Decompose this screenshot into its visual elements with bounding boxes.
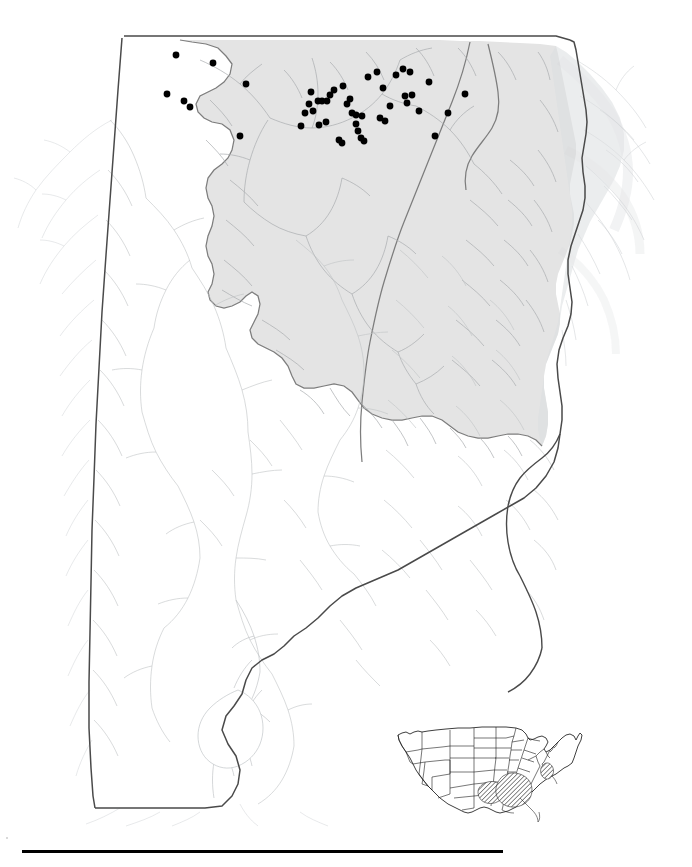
occurrence-dot <box>404 100 411 107</box>
united-states-locator-inset <box>388 708 588 830</box>
figure-root <box>0 0 692 867</box>
page-speck <box>6 837 8 839</box>
occurrence-dot <box>409 92 416 99</box>
occurrence-dot <box>339 140 346 147</box>
occurrence-dot <box>310 108 317 115</box>
occurrence-dot <box>400 66 407 73</box>
occurrence-dot <box>353 112 360 119</box>
occurrence-dot <box>298 123 305 130</box>
occurrence-dot <box>387 103 394 110</box>
occurrence-dot <box>306 101 313 108</box>
occurrence-dot <box>316 122 323 129</box>
occurrence-dot <box>181 98 188 105</box>
occurrence-dot <box>426 79 433 86</box>
occurrence-dot <box>445 110 452 117</box>
caption-rule <box>22 850 503 853</box>
caption-rule-container <box>0 846 692 858</box>
occurrence-dot <box>302 110 309 117</box>
occurrence-dot <box>173 52 180 59</box>
occurrence-dot <box>323 119 330 126</box>
occurrence-dot <box>243 81 250 88</box>
occurrence-dot <box>324 98 331 105</box>
occurrence-dot <box>353 121 360 128</box>
occurrence-dot <box>382 118 389 125</box>
occurrence-dot <box>308 89 315 96</box>
occurrence-dot <box>237 133 244 140</box>
occurrence-dot <box>340 83 347 90</box>
occurrence-dot <box>380 85 387 92</box>
hatched-region-interior-low-plateau <box>496 773 532 807</box>
occurrence-dot <box>187 104 194 111</box>
occurrence-dot <box>374 69 381 76</box>
occurrence-dot <box>432 133 439 140</box>
alabama-distribution-map <box>0 0 692 867</box>
occurrence-dot <box>365 74 372 81</box>
hatched-region-mid-atlantic <box>541 763 554 779</box>
occurrence-dot <box>416 108 423 115</box>
inset-svg <box>388 708 588 830</box>
occurrence-dot <box>361 138 368 145</box>
occurrence-dot <box>210 60 217 67</box>
occurrence-dot <box>407 69 414 76</box>
occurrence-dot <box>347 96 354 103</box>
occurrence-dot <box>327 92 334 99</box>
occurrence-dot <box>462 91 469 98</box>
occurrence-dot <box>355 128 362 135</box>
occurrence-dot <box>402 93 409 100</box>
occurrence-dot <box>393 72 400 79</box>
occurrence-dot <box>164 91 171 98</box>
occurrence-dot <box>359 113 366 120</box>
